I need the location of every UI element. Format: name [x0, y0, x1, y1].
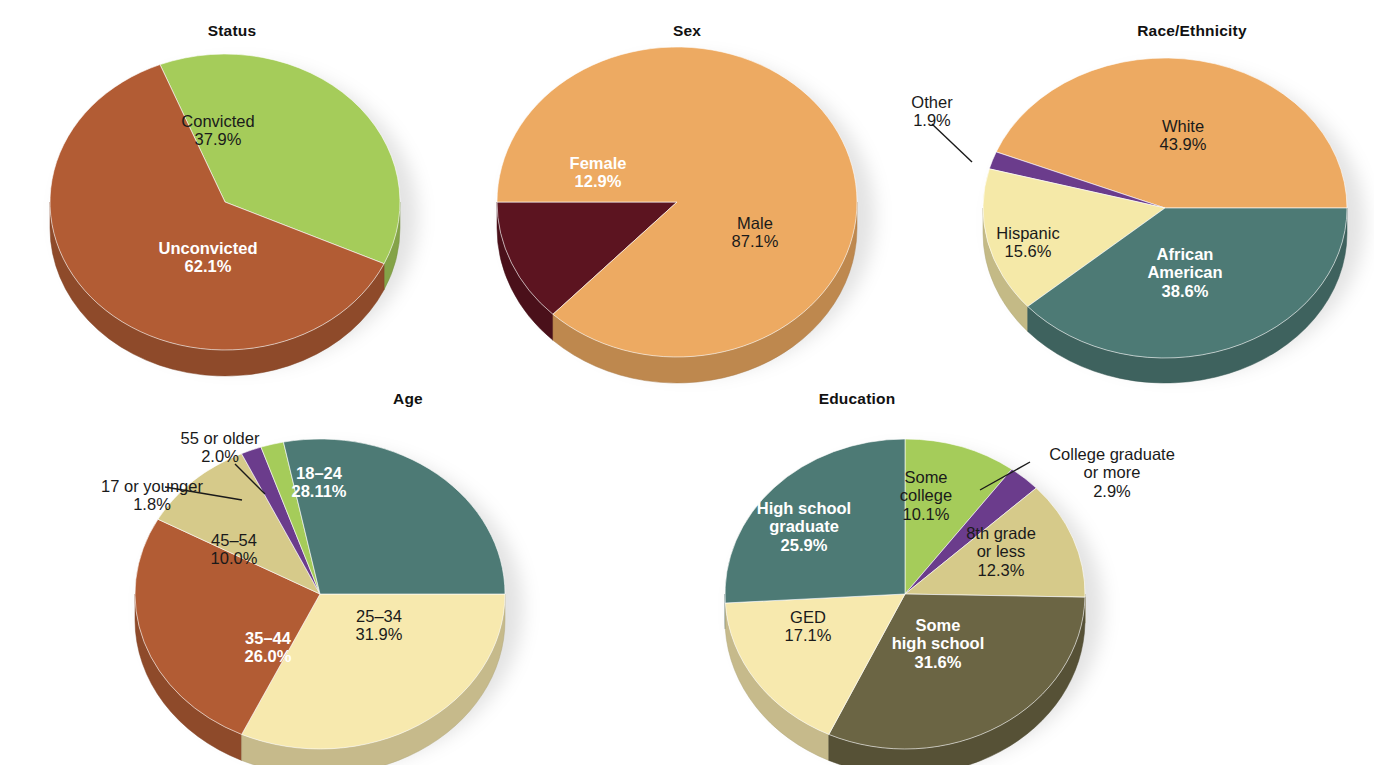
callout-name-other: Other [911, 93, 952, 111]
callout-pct-17-or-younger: 1.8% [101, 495, 203, 513]
callout-label-17-or-younger: 17 or younger 1.8% [101, 477, 203, 514]
callout-pct-college-graduate: 2.9% [1049, 482, 1175, 500]
chart-race-ethnicity: Race/Ethnicity Other 1.9% White 43.9% Hi… [880, 0, 1374, 375]
pie-status [0, 0, 460, 370]
chart-age: Age 55 or older 2.0% 17 or younger 1.8% … [60, 372, 620, 765]
callout-pct-other: 1.9% [911, 111, 952, 129]
callout-name-college-graduate-line1: College graduate [1049, 445, 1175, 463]
callout-pct-55-or-older: 2.0% [181, 447, 260, 465]
chart-education: Education College graduate or more 2.9% … [660, 372, 1280, 765]
callout-name-55-or-older: 55 or older [181, 429, 260, 447]
leader-line-other [880, 0, 1374, 375]
leader-line-college-graduate [660, 372, 1280, 765]
pie-sex [455, 0, 885, 370]
callout-name-17-or-younger: 17 or younger [101, 477, 203, 495]
callout-label-55-or-older: 55 or older 2.0% [181, 429, 260, 466]
callout-label-college-graduate: College graduate or more 2.9% [1049, 445, 1175, 500]
callout-name-college-graduate-line2: or more [1049, 463, 1175, 481]
chart-sex: Sex Female 12.9% Male 87.1% [455, 0, 885, 370]
callout-label-other: Other 1.9% [911, 93, 952, 130]
leader-line-17-or-younger [60, 372, 620, 765]
chart-status: Status Convicted 37.9% Unconvicted 62.1% [0, 0, 460, 370]
